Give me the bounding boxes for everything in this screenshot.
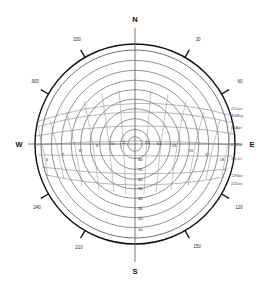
hour-curve-18: [222, 127, 232, 176]
cardinal-east: E: [249, 140, 254, 149]
sun-path-diagram: N E S W 30 60 120 150 210 240 300 330 80…: [0, 0, 270, 285]
tick-210: [81, 231, 85, 239]
altitude-label-10: 10: [138, 227, 143, 232]
tick-240: [41, 194, 49, 198]
date-label-22dec: 22Dec: [231, 181, 243, 186]
axis-lines: [28, 28, 242, 262]
cardinal-south: S: [132, 267, 137, 276]
altitude-label-20: 20: [138, 216, 143, 221]
hour-label-16: 16: [189, 148, 194, 153]
altitude-label-40: 40: [138, 196, 143, 201]
tick-120: [222, 194, 230, 198]
date-label-15oct: 15Oct: [231, 156, 243, 161]
date-curve-labels: 22Jun 15May 15Apr 21Mar 15Oct 13Nov 22De…: [231, 106, 244, 186]
azimuth-label-300: 300: [31, 79, 39, 84]
tick-60: [222, 90, 230, 94]
tick-330: [81, 50, 85, 58]
altitude-label-80: 80: [138, 157, 143, 162]
altitude-label-30: 30: [138, 206, 143, 211]
date-label-22jun: 22Jun: [231, 106, 243, 111]
hour-label-17: 17: [205, 152, 210, 157]
tick-300: [41, 90, 49, 94]
hour-label-15: 15: [172, 143, 177, 148]
date-label-13nov: 13Nov: [231, 173, 244, 178]
altitude-label-60: 60: [138, 177, 143, 182]
sun-path-svg: N E S W 30 60 120 150 210 240 300 330 80…: [0, 0, 270, 285]
altitude-label-70: 70: [138, 167, 143, 172]
azimuth-label-330: 330: [73, 37, 81, 42]
date-label-15may: 15May: [231, 113, 244, 118]
cardinal-west: W: [15, 140, 23, 149]
hour-label-18: 18: [220, 157, 225, 162]
date-label-15apr: 15Apr: [231, 125, 243, 130]
hour-label-14: 14: [157, 141, 162, 146]
date-label-21mar: 21Mar: [231, 142, 243, 147]
azimuth-label-150: 150: [193, 244, 201, 249]
hour-label-13: 13: [145, 140, 150, 145]
tick-30: [185, 50, 189, 58]
azimuth-label-120: 120: [235, 205, 243, 210]
hour-label-6: 6: [46, 157, 49, 162]
altitude-labels: 80 70 60 50 40 30 20 10: [138, 157, 143, 232]
hour-label-7: 7: [62, 152, 65, 157]
azimuth-label-30: 30: [195, 37, 201, 42]
tick-150: [185, 231, 189, 239]
hour-label-10: 10: [110, 141, 115, 146]
hour-label-11: 11: [122, 140, 127, 145]
azimuth-label-240: 240: [33, 205, 41, 210]
cardinal-north: N: [132, 15, 137, 24]
azimuth-label-60: 60: [237, 79, 243, 84]
altitude-label-50: 50: [138, 186, 143, 191]
azimuth-label-210: 210: [75, 245, 83, 250]
